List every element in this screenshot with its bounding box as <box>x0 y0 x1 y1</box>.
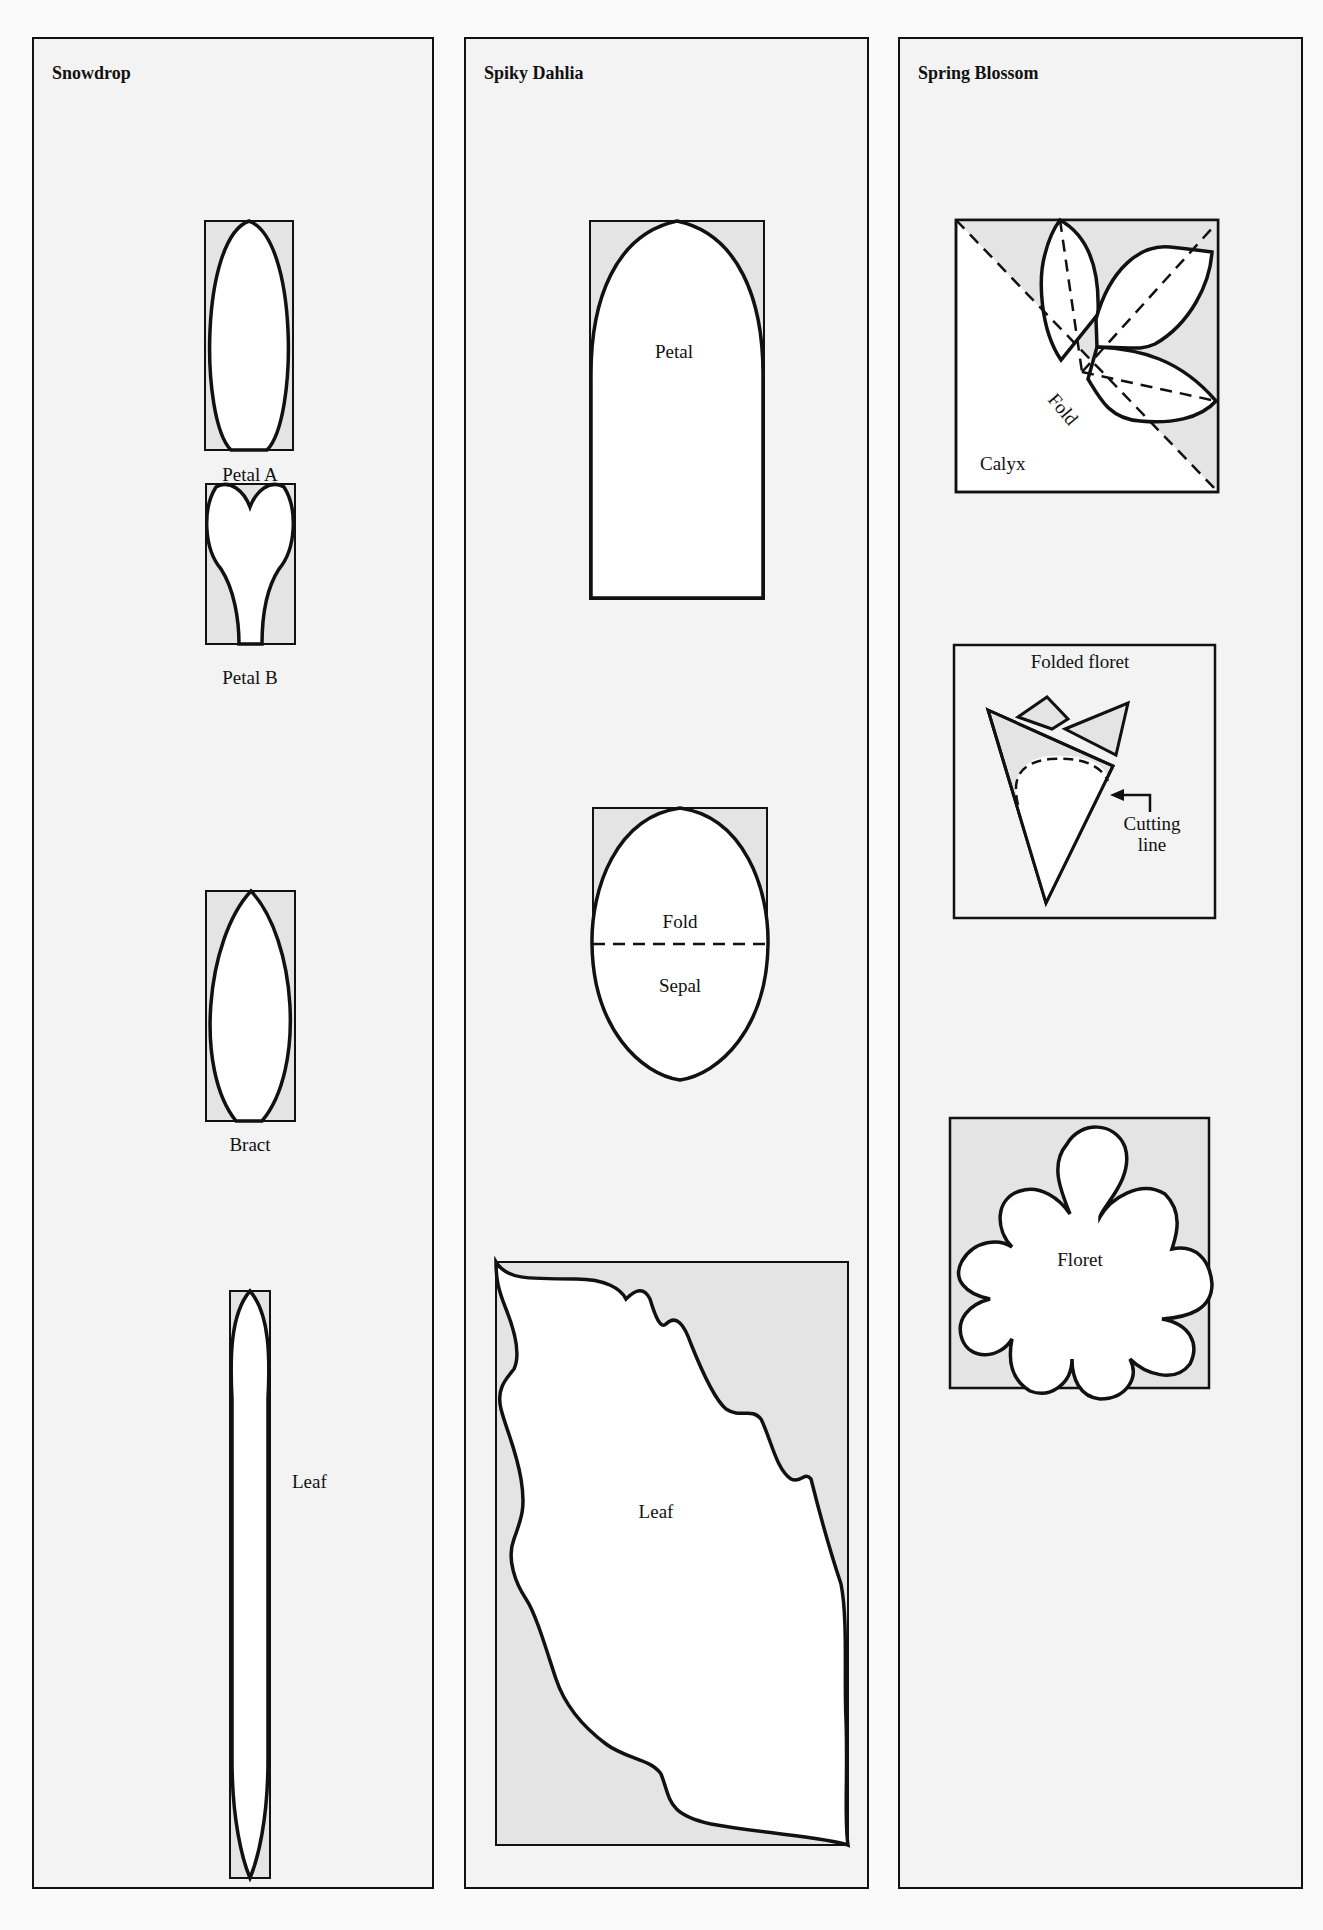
label-floret: Floret <box>1057 1249 1102 1271</box>
spring-blossom-templates <box>900 39 1305 1891</box>
label-fold: Fold <box>663 911 698 933</box>
label-cutting-line-text: Cutting line <box>1123 813 1180 855</box>
label-bract: Bract <box>229 1134 270 1156</box>
snowdrop-templates <box>34 39 436 1891</box>
panel-spiky-dahlia: Spiky Dahlia Petal Fold Sepal Leaf <box>464 37 869 1889</box>
petal-b-template <box>206 484 295 644</box>
panel-snowdrop: Snowdrop Petal A Petal B Bract Leaf <box>32 37 434 1889</box>
label-snowdrop-leaf: Leaf <box>292 1471 327 1493</box>
dahlia-leaf-template <box>496 1262 848 1845</box>
label-calyx: Calyx <box>980 453 1025 475</box>
calyx-template <box>956 220 1218 492</box>
label-cutting-line: Cutting line <box>1112 813 1192 855</box>
sepal-template <box>592 808 768 1080</box>
label-sepal: Sepal <box>659 975 701 997</box>
label-dahlia-petal: Petal <box>655 341 693 363</box>
label-dahlia-leaf: Leaf <box>639 1501 674 1523</box>
folded-floret-template <box>954 645 1215 918</box>
label-petal-a: Petal A <box>222 464 277 486</box>
dahlia-petal-template <box>590 221 764 599</box>
bract-template <box>206 891 295 1121</box>
panel-spring-blossom: Spring Blossom <box>898 37 1303 1889</box>
petal-a-template <box>205 221 293 450</box>
label-petal-b: Petal B <box>222 667 277 689</box>
snowdrop-leaf-template <box>230 1291 270 1878</box>
spiky-dahlia-templates <box>466 39 871 1891</box>
label-folded-floret: Folded floret <box>1031 651 1130 673</box>
